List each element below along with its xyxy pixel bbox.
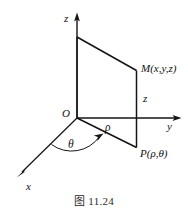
- point-p-label: P(ρ,θ): [140, 148, 167, 159]
- z-axis: [74, 13, 80, 119]
- plane-top-edge: [77, 37, 137, 71]
- x-axis-label: x: [26, 181, 31, 192]
- point-m-label: M(x,y,z): [141, 63, 176, 74]
- x-axis-arrowhead: [17, 169, 28, 178]
- theta-arc-arrowhead: [94, 134, 104, 142]
- z-axis-label: z: [64, 13, 68, 24]
- y-axis: [77, 115, 182, 121]
- figure-caption: 图 11.24: [0, 192, 188, 208]
- theta-arc-path: [52, 137, 100, 152]
- z-height-label: z: [143, 93, 147, 104]
- origin-label: O: [62, 108, 70, 119]
- figure-container: z y x O M(x,y,z) P(ρ,θ) ρ z θ 图 11.24: [0, 0, 188, 215]
- rho-segment-label: ρ: [105, 122, 111, 134]
- y-axis-label: y: [167, 121, 172, 132]
- theta-angle-label: θ: [68, 139, 74, 151]
